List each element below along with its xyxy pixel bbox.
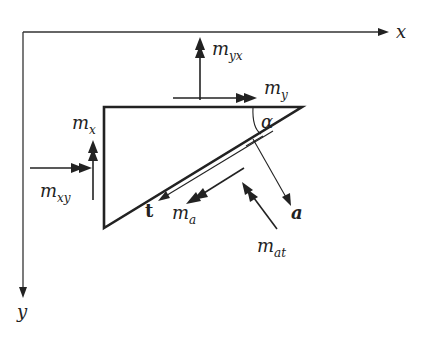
moment-mxy-arrow [30, 163, 92, 173]
t-shaft [164, 131, 273, 197]
angle-alpha-arc [253, 107, 261, 134]
tangent-vector-t [158, 131, 273, 201]
moment-ma-label: ma [172, 202, 196, 227]
moment-mat-label: mat [257, 235, 286, 260]
normal-vector-label: a [291, 202, 303, 223]
arrowhead-icon [282, 193, 291, 206]
moment-myx-arrow [195, 37, 205, 100]
angle-alpha-label: α [261, 111, 273, 132]
moment-my-arrow [173, 93, 257, 103]
x-axis-label: x [396, 21, 406, 42]
moment-mx-arrow [88, 140, 98, 200]
moment-myx-label: myx [212, 38, 243, 63]
tangent-vector-label: t [145, 200, 154, 221]
plate-moment-diagram: x y α myx my mx mxy t [0, 0, 424, 338]
a-shaft [253, 139, 287, 199]
moment-mxy-label: mxy [40, 180, 71, 205]
moment-mx-label: mx [72, 112, 96, 137]
x-axis-arrowhead-icon [378, 28, 389, 36]
moment-my-label: my [264, 77, 288, 102]
moment-mat-arrow [242, 182, 277, 229]
y-axis-arrowhead-icon [19, 287, 27, 298]
y-axis-label: y [16, 301, 28, 322]
